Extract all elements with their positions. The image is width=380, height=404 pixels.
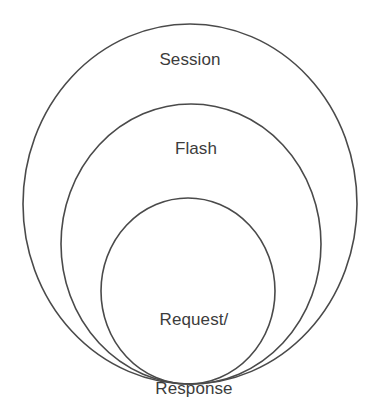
- request-response-label-line-1: Request/: [8, 308, 380, 331]
- session-label: Session: [0, 48, 380, 71]
- nested-scopes-diagram: Session Flash Request/ Response: [0, 0, 380, 404]
- flash-label: Flash: [12, 137, 380, 160]
- request-response-label: Request/ Response: [8, 262, 380, 404]
- request-response-label-line-2: Response: [8, 377, 380, 400]
